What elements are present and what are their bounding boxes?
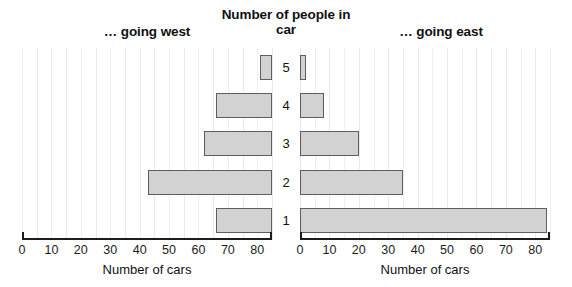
bar-right-3 (300, 131, 359, 156)
bar-right-4 (300, 93, 324, 118)
bar-row (300, 86, 550, 124)
bar-left-1 (216, 208, 272, 233)
tick-label: 80 (520, 243, 550, 257)
bar-left-5 (260, 55, 272, 80)
tick-label: 80 (242, 243, 272, 257)
bar-row (22, 202, 272, 240)
bar-row (300, 125, 550, 163)
bar-row (300, 48, 550, 86)
category-label-3: 3 (272, 125, 300, 163)
tick-label: 40 (125, 243, 155, 257)
bar-row (22, 125, 272, 163)
gridline (550, 48, 551, 240)
category-axis: 54321 (272, 48, 300, 240)
chart-title: Number of people in car (211, 7, 361, 37)
bar-row (22, 163, 272, 201)
west-tick-labels: 80706050403020100 (22, 243, 272, 259)
bar-right-1 (300, 208, 547, 233)
tick-label: 10 (36, 243, 66, 257)
tick-label: 40 (403, 243, 433, 257)
west-axis-cap-outer (22, 232, 24, 240)
tick-label: 30 (95, 243, 125, 257)
west-axis-line (22, 238, 272, 240)
category-label-2: 2 (272, 163, 300, 201)
west-bars (22, 48, 272, 240)
tick-label: 70 (491, 243, 521, 257)
category-label-5: 5 (272, 48, 300, 86)
tick-label: 60 (183, 243, 213, 257)
tick-label: 0 (285, 243, 315, 257)
east-tick-labels: 01020304050607080 (300, 243, 550, 259)
east-bars (300, 48, 550, 240)
east-axis-cap-inner (300, 232, 302, 240)
bar-row (300, 202, 550, 240)
bar-right-2 (300, 170, 403, 195)
tick-label: 50 (432, 243, 462, 257)
bar-right-5 (300, 55, 306, 80)
chart-header: … going west Number of people in car … g… (0, 0, 572, 48)
tick-label: 50 (154, 243, 184, 257)
bar-left-3 (204, 131, 272, 156)
tick-label: 20 (66, 243, 96, 257)
tick-label: 20 (344, 243, 374, 257)
east-axis-cap-outer (548, 232, 550, 240)
west-plot-area (22, 48, 272, 240)
category-label-4: 4 (272, 86, 300, 124)
chart-container: … going west Number of people in car … g… (0, 0, 572, 287)
tick-label: 60 (461, 243, 491, 257)
bar-row (22, 86, 272, 124)
bar-left-4 (216, 93, 272, 118)
tick-label: 10 (314, 243, 344, 257)
west-axis-title: Number of cars (22, 262, 272, 277)
east-axis-title: Number of cars (300, 262, 550, 277)
east-axis-line (300, 238, 550, 240)
bar-row (22, 48, 272, 86)
west-panel-title: … going west (62, 24, 232, 39)
tick-label: 30 (373, 243, 403, 257)
tick-label: 70 (213, 243, 243, 257)
bar-row (300, 163, 550, 201)
bar-left-2 (148, 170, 272, 195)
east-panel-title: … going east (356, 24, 526, 39)
tick-label: 0 (7, 243, 37, 257)
east-plot-area (300, 48, 550, 240)
category-label-1: 1 (272, 202, 300, 240)
